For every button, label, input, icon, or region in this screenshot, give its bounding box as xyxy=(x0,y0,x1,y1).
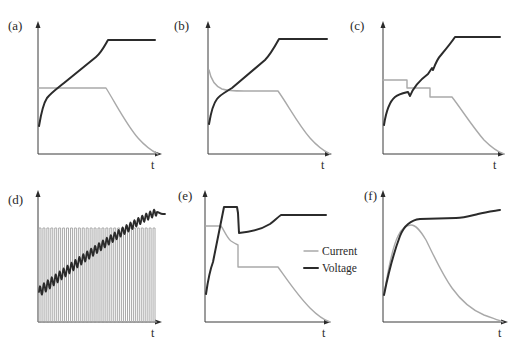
panel-b: (b) t xyxy=(174,18,332,172)
y-axis-arrow-icon xyxy=(36,190,41,197)
x-axis-label: t xyxy=(493,158,497,172)
voltage-curve xyxy=(384,210,500,295)
panel-label-c: (c) xyxy=(350,18,364,33)
legend-current-label: Current xyxy=(322,245,358,257)
panel-a: (a) t xyxy=(8,18,162,172)
panel-f: (f) t xyxy=(364,188,508,340)
x-axis-label: t xyxy=(498,326,502,340)
panel-label-d: (d) xyxy=(8,192,23,207)
current-curve xyxy=(209,70,330,154)
panel-c: (c) t xyxy=(350,18,505,172)
panel-label-f: (f) xyxy=(364,188,377,203)
x-axis-label: t xyxy=(322,326,326,340)
charging-profiles-figure: (a) t (b) t (c) t (d) t xyxy=(0,0,529,349)
panel-d: (d) t xyxy=(8,190,165,340)
x-axis-label: t xyxy=(151,158,155,172)
y-axis-arrow-icon xyxy=(36,21,41,28)
panel-e: (e) t Current Voltage xyxy=(178,188,358,340)
x-axis-label: t xyxy=(151,326,155,340)
current-curve xyxy=(383,80,504,154)
voltage-curve xyxy=(39,40,155,126)
legend-voltage-label: Voltage xyxy=(322,262,357,275)
voltage-curve xyxy=(384,37,500,125)
panel-label-b: (b) xyxy=(174,18,189,33)
panel-label-e: (e) xyxy=(178,188,192,203)
voltage-curve xyxy=(209,39,327,124)
current-curve xyxy=(206,226,330,322)
y-axis-arrow-icon xyxy=(203,190,208,197)
legend: Current Voltage xyxy=(304,245,358,275)
current-curve xyxy=(384,225,503,322)
y-axis-arrow-icon xyxy=(206,21,211,28)
x-axis-label: t xyxy=(321,158,325,172)
y-axis-arrow-icon xyxy=(381,190,386,197)
current-curve xyxy=(38,88,158,154)
panel-label-a: (a) xyxy=(8,18,22,33)
y-axis-arrow-icon xyxy=(381,21,386,28)
